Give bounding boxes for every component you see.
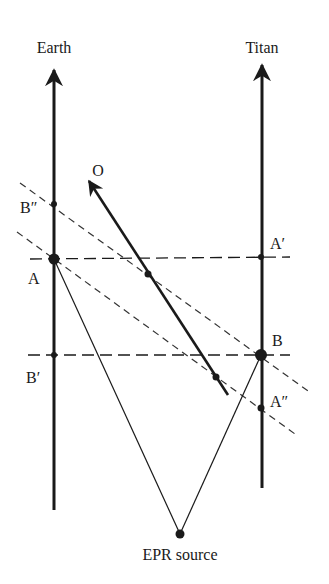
earth-label: Earth [37,39,72,56]
event-B-prime-dot [51,352,57,358]
event-A-prime-dot [258,254,264,260]
event-B-prime-label: B′ [26,369,40,386]
event-B-dot [255,349,267,361]
observer-event-dot-1 [145,271,152,278]
event-B-label: B [272,332,283,349]
observer-label: O [92,162,104,179]
epr-source-dot [176,530,185,539]
event-A-label: A [28,270,40,287]
event-A-double-prime-label: A″ [270,393,288,410]
event-A-prime-label: A′ [270,235,285,252]
observer-simultaneity-line-B [20,183,308,391]
event-A-dot [49,254,60,265]
observer-simultaneity-line-A [17,232,295,434]
observer-worldline [89,181,228,395]
titan-label: Titan [245,39,278,56]
event-B-double-prime-dot [51,201,57,207]
event-B-double-prime-label: B″ [20,199,37,216]
particle-path-to-earth [54,259,180,534]
event-A-double-prime-dot [258,405,265,412]
epr-source-label: EPR source [142,546,217,563]
observer-event-dot-2 [213,374,220,381]
simultaneity-line-A [30,257,290,259]
spacetime-diagram: Earth Titan O B″ A B′ A′ B A″ EPR source [0,0,329,584]
